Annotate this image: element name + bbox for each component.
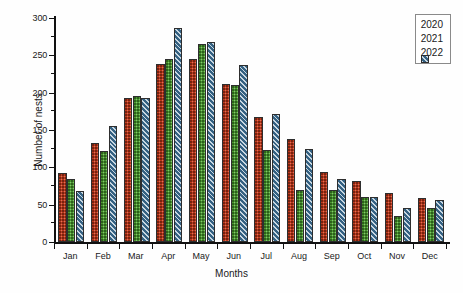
bar: [207, 42, 215, 242]
x-tick-label: Feb: [95, 251, 111, 261]
legend-label: 2020: [421, 20, 443, 30]
bar: [320, 172, 328, 242]
y-tick-mark: [49, 93, 55, 94]
y-tick-minor: [51, 73, 55, 74]
bar: [361, 197, 369, 242]
y-tick-minor: [51, 148, 55, 149]
x-axis-tick-band: JanFebMarAprMayJunJulAugSepOctNovDec: [54, 244, 450, 268]
bar: [435, 200, 443, 242]
bar: [198, 44, 206, 242]
legend: 202020212022: [415, 14, 451, 64]
x-tick-mark: [185, 244, 186, 249]
x-tick-mark: [446, 244, 447, 249]
bar: [337, 179, 345, 242]
bar-chart: Number of nests 050100150200250300 JanFe…: [0, 0, 463, 293]
x-tick-mark: [348, 244, 349, 249]
x-tick-label: May: [192, 251, 209, 261]
y-tick-minor: [51, 36, 55, 37]
bar-group: [287, 18, 313, 242]
y-tick-label: 50: [37, 200, 47, 210]
bar: [239, 65, 247, 242]
bar-group: [352, 18, 378, 242]
x-tick-label: Dec: [422, 251, 438, 261]
x-tick-mark: [152, 244, 153, 249]
bar-group: [320, 18, 346, 242]
x-tick-mark: [413, 244, 414, 249]
x-tick-mark: [119, 244, 120, 249]
bar: [124, 98, 132, 242]
y-tick-mark: [49, 18, 55, 19]
bar-group: [124, 18, 150, 242]
legend-swatch: [421, 55, 429, 63]
x-tick-mark: [283, 244, 284, 249]
bar-group: [222, 18, 248, 242]
y-tick-minor: [51, 222, 55, 223]
y-tick-label: 250: [33, 50, 47, 60]
bar: [109, 126, 117, 242]
y-tick-label: 150: [33, 125, 47, 135]
bar: [76, 191, 84, 242]
x-tick-label: Oct: [357, 251, 371, 261]
y-tick-label: 100: [33, 162, 47, 172]
bar: [58, 173, 66, 242]
y-tick-minor: [51, 110, 55, 111]
bar-group: [156, 18, 182, 242]
legend-item: 2020: [421, 18, 443, 32]
legend-item: 2022: [421, 46, 443, 60]
y-tick-mark: [49, 242, 55, 243]
x-tick-mark: [54, 244, 55, 249]
y-tick-label: 200: [33, 88, 47, 98]
x-tick-mark: [217, 244, 218, 249]
bar: [100, 151, 108, 242]
y-tick-mark: [49, 167, 55, 168]
bar: [174, 28, 182, 242]
bar: [352, 181, 360, 242]
y-tick-mark: [49, 55, 55, 56]
bar: [403, 208, 411, 242]
bar: [231, 85, 239, 242]
bar: [133, 96, 141, 242]
x-tick-mark: [250, 244, 251, 249]
bar: [370, 197, 378, 242]
bar: [141, 98, 149, 242]
y-tick-mark: [49, 130, 55, 131]
bar: [67, 179, 75, 242]
x-axis-title: Months: [0, 268, 463, 279]
y-tick-mark: [49, 205, 55, 206]
plot-area: 050100150200250300: [55, 18, 447, 242]
bar-group: [189, 18, 215, 242]
bar: [222, 84, 230, 242]
bar: [156, 64, 164, 242]
bar: [263, 150, 271, 242]
y-tick-minor: [51, 185, 55, 186]
bar-group: [254, 18, 280, 242]
bar: [418, 198, 426, 242]
x-tick-label: Sep: [324, 251, 340, 261]
legend-item: 2021: [421, 32, 443, 46]
bar: [254, 117, 262, 242]
bar: [427, 208, 435, 242]
x-tick-label: Apr: [161, 251, 175, 261]
x-tick-mark: [381, 244, 382, 249]
y-tick-label: 0: [42, 237, 47, 247]
legend-label: 2021: [421, 34, 443, 44]
x-tick-label: Jan: [63, 251, 78, 261]
x-tick-label: Jun: [226, 251, 241, 261]
bar-group: [58, 18, 84, 242]
bar: [287, 139, 295, 242]
x-tick-label: Aug: [291, 251, 307, 261]
x-tick-label: Nov: [389, 251, 405, 261]
bar: [296, 190, 304, 242]
x-tick-label: Mar: [128, 251, 144, 261]
bar-group: [385, 18, 411, 242]
y-tick-label: 300: [33, 13, 47, 23]
bar: [305, 149, 313, 242]
bar: [394, 216, 402, 242]
x-tick-label: Jul: [261, 251, 273, 261]
bar: [91, 143, 99, 242]
bar: [165, 59, 173, 242]
bar: [272, 114, 280, 242]
bar: [189, 59, 197, 242]
x-tick-mark: [315, 244, 316, 249]
bar: [329, 190, 337, 242]
